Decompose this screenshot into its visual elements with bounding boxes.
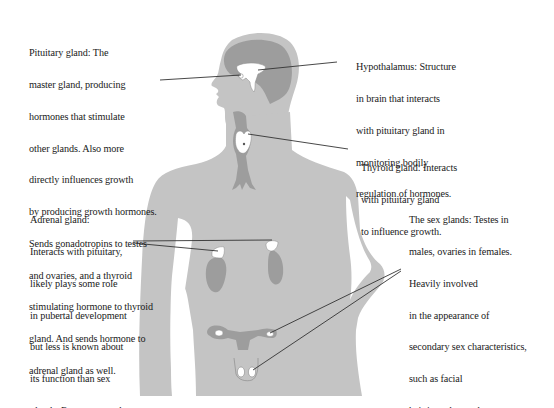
callout-line: Pituitary gland: The	[29, 48, 157, 59]
callout-line: with pituitary gland in	[356, 126, 456, 137]
callout-line: master gland, producing	[29, 80, 157, 91]
callout-line: males, ovaries in females.	[409, 247, 527, 258]
thyroid-dot	[243, 143, 245, 145]
callout-line: directly influences growth	[29, 175, 157, 186]
callout-line: The sex glands: Testes in	[409, 215, 527, 226]
pituitary-gland	[239, 74, 243, 78]
callout-line: such as facial	[409, 374, 527, 385]
callout-line: Interacts with pituitary,	[30, 247, 131, 258]
callout-line: but less is known about	[30, 342, 131, 353]
callout-line: Heavily involved	[409, 279, 527, 290]
callout-line: hormones that stimulate	[29, 112, 157, 123]
left-testis	[237, 367, 244, 377]
callout-line: Adrenal gland:	[30, 215, 131, 226]
sex-glands-callout: The sex glands: Testes in males, ovaries…	[409, 194, 527, 408]
callout-line: in brain that interacts	[356, 94, 456, 105]
callout-line: in pubertal development	[30, 311, 131, 322]
callout-line: in the appearance of	[409, 311, 527, 322]
callout-line: Thyroid gland: Interacts	[361, 163, 457, 174]
callout-line: secondary sex characteristics,	[409, 342, 527, 353]
left-ovary	[215, 330, 223, 336]
callout-line: likely plays some role	[30, 279, 131, 290]
callout-line: Hypothalamus: Structure	[356, 62, 456, 73]
callout-line: other glands. Also more	[29, 144, 157, 155]
adrenal-callout: Adrenal gland: Interacts with pituitary,…	[30, 194, 131, 408]
callout-line: its function than sex	[30, 374, 131, 385]
